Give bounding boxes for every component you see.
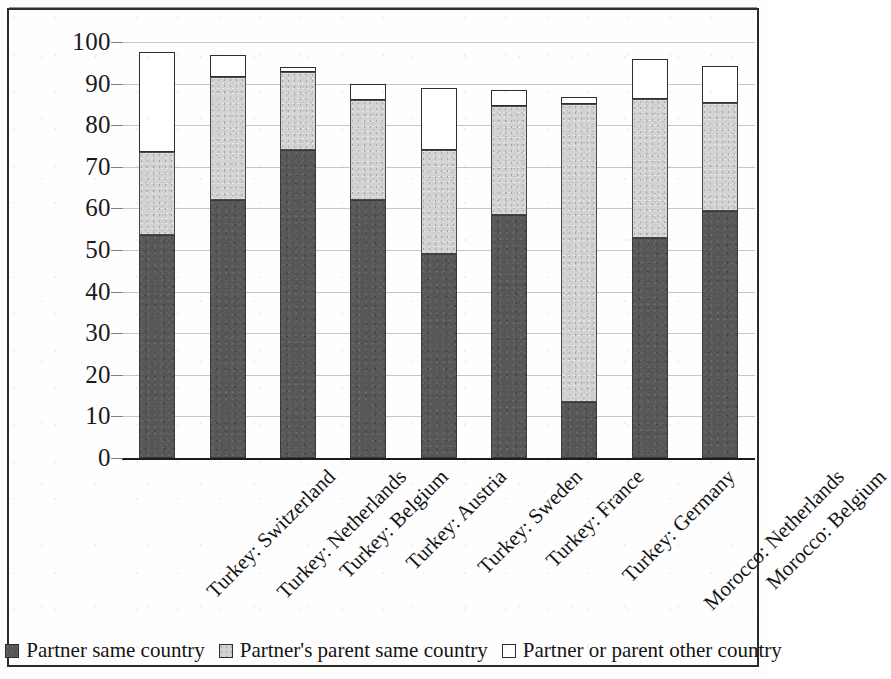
bar-segment-white[interactable]: [139, 52, 175, 152]
bar-segment-dark[interactable]: [632, 238, 668, 458]
bar-segment-dark[interactable]: [702, 211, 738, 458]
legend-item[interactable]: Partner's parent same country: [219, 638, 488, 663]
bar-series-container: [122, 42, 755, 458]
y-axis-labels: 1009080706050403020100: [49, 42, 111, 458]
legend-swatch-white-icon: [502, 644, 516, 658]
y-axis-tick-label: 50: [59, 237, 111, 262]
bar-segment-white[interactable]: [491, 90, 527, 106]
bar-segment-dark[interactable]: [350, 200, 386, 458]
bar-group[interactable]: [139, 42, 175, 458]
bar-segment-dark[interactable]: [139, 235, 175, 458]
legend-label: Partner's parent same country: [240, 638, 488, 663]
chart-frame-border: 1009080706050403020100 Turkey: Switzerla…: [7, 8, 759, 667]
y-axis-tick-label: 80: [59, 112, 111, 137]
x-axis-label-slot: Turkey: Belgium: [263, 462, 333, 617]
x-axis-label-slot: Turkey: Switzerland: [122, 462, 192, 617]
y-axis-tick-label: 70: [59, 154, 111, 179]
bar-group[interactable]: [210, 42, 246, 458]
x-axis-label-slot: Turkey: Sweden: [403, 462, 473, 617]
bar-segment-white[interactable]: [210, 55, 246, 78]
chart-legend: Partner same countryPartner's parent sam…: [9, 638, 778, 663]
bar-segment-light[interactable]: [139, 152, 175, 235]
x-axis-label-slot: Turkey: Austria: [333, 462, 403, 617]
bar-segment-light[interactable]: [350, 100, 386, 200]
x-axis-label-slot: Morocco: Belgium: [685, 462, 755, 617]
y-axis-tick-label: 30: [59, 320, 111, 345]
x-axis-labels: Turkey: SwitzerlandTurkey: NetherlandsTu…: [122, 462, 755, 617]
bar-segment-dark[interactable]: [280, 150, 316, 458]
bar-segment-white[interactable]: [702, 66, 738, 103]
x-axis-label-slot: Turkey: France: [474, 462, 544, 617]
y-tick-mark: [111, 458, 123, 459]
y-axis-tick-label: 20: [59, 362, 111, 387]
bar-segment-light[interactable]: [280, 72, 316, 150]
bar-segment-dark[interactable]: [561, 402, 597, 458]
legend-label: Partner same country: [26, 638, 204, 663]
bar-segment-dark[interactable]: [421, 254, 457, 458]
bar-group[interactable]: [561, 42, 597, 458]
bar-group[interactable]: [280, 42, 316, 458]
bar-group[interactable]: [491, 42, 527, 458]
axis-baseline: [122, 458, 755, 460]
bar-group[interactable]: [702, 42, 738, 458]
bar-segment-light[interactable]: [491, 106, 527, 215]
bar-segment-white[interactable]: [350, 84, 386, 100]
y-axis-tick-label: 100: [59, 29, 111, 54]
x-axis-label-slot: Turkey: Netherlands: [192, 462, 262, 617]
legend-item[interactable]: Partner same country: [5, 638, 204, 663]
bar-segment-white[interactable]: [421, 88, 457, 150]
y-axis-tick-label: 90: [59, 71, 111, 96]
bar-segment-white[interactable]: [280, 67, 316, 72]
y-axis-tick-label: 0: [59, 445, 111, 470]
legend-item[interactable]: Partner or parent other country: [502, 638, 782, 663]
bar-segment-light[interactable]: [421, 150, 457, 254]
bar-segment-light[interactable]: [561, 104, 597, 401]
bar-group[interactable]: [421, 42, 457, 458]
bar-segment-white[interactable]: [632, 59, 668, 99]
bar-group[interactable]: [632, 42, 668, 458]
bar-segment-dark[interactable]: [210, 200, 246, 458]
bar-segment-light[interactable]: [702, 103, 738, 211]
x-axis-label-slot: Morocco: Netherlands: [614, 462, 684, 617]
bar-group[interactable]: [350, 42, 386, 458]
x-axis-label-slot: Turkey: Germany: [544, 462, 614, 617]
y-axis-tick-label: 10: [59, 403, 111, 428]
bar-segment-light[interactable]: [210, 77, 246, 200]
bar-segment-dark[interactable]: [491, 215, 527, 458]
bar-segment-light[interactable]: [632, 99, 668, 238]
legend-swatch-light-icon: [219, 644, 233, 658]
y-axis-tick-label: 60: [59, 195, 111, 220]
legend-label: Partner or parent other country: [523, 638, 782, 663]
y-axis-tick-label: 40: [59, 279, 111, 304]
legend-swatch-dark-icon: [5, 644, 19, 658]
bar-segment-white[interactable]: [561, 97, 597, 104]
